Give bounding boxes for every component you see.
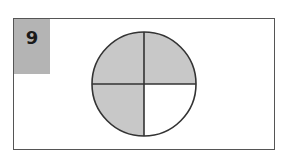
fraction-circle-diagram [0,0,292,156]
